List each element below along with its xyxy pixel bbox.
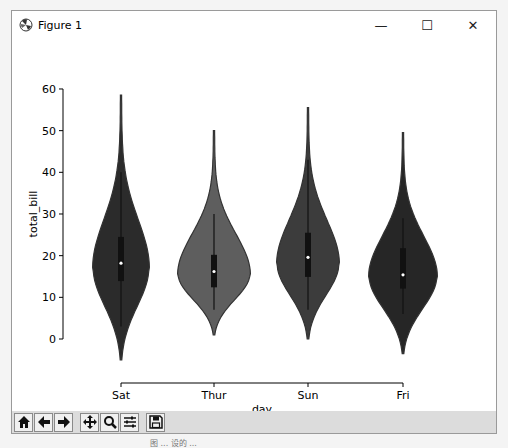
x-axis: SatThurSunFriday [112,383,410,411]
arrow-left-icon [37,415,51,429]
violin-sun [277,108,340,339]
maximize-button[interactable]: ☐ [404,11,450,39]
home-icon [17,415,31,429]
violin-sat [93,95,150,360]
window-title: Figure 1 [38,19,82,32]
y-tick-label: 10 [42,291,56,304]
y-axis-label: total_bill [27,191,40,238]
magnifier-icon [103,415,117,429]
iqr-box [118,237,124,281]
violins [93,95,438,360]
minimize-button[interactable]: — [358,11,404,39]
iqr-box [305,233,311,277]
forward-button[interactable] [54,413,73,432]
back-button[interactable] [34,413,53,432]
figure-window: Figure 1 — ☐ ✕ 0102030405060total_bill S… [11,10,497,434]
zoom-button[interactable] [100,413,119,432]
median-dot [306,256,309,259]
arrow-right-icon [57,415,71,429]
violin-plot: 0102030405060total_bill SatThurSunFriday [12,39,496,411]
x-tick-label: Fri [396,389,409,402]
close-button[interactable]: ✕ [450,11,496,39]
y-tick-label: 60 [42,83,56,96]
configure-subplots-button[interactable] [120,413,139,432]
maximize-icon: ☐ [421,18,433,33]
y-tick-label: 30 [42,208,56,221]
minimize-icon: — [375,18,388,33]
move-icon [83,415,97,429]
y-tick-label: 0 [49,333,56,346]
violin-thur [178,131,251,335]
y-tick-label: 20 [42,250,56,263]
violin-fri [369,133,438,354]
median-dot [401,273,404,276]
save-button[interactable] [146,413,165,432]
x-tick-label: Sat [112,389,131,402]
sliders-icon [123,415,137,429]
y-axis: 0102030405060total_bill [27,83,63,346]
y-tick-label: 40 [42,166,56,179]
figure-caption: 图 ... 设的 ... [150,437,197,448]
pan-button[interactable] [80,413,99,432]
iqr-box [400,248,406,288]
floppy-disk-icon [149,415,163,429]
median-dot [212,270,215,273]
y-tick-label: 50 [42,125,56,138]
title-bar[interactable]: Figure 1 — ☐ ✕ [12,11,496,39]
matplotlib-logo-icon [19,18,33,32]
median-dot [119,262,122,265]
x-tick-label: Thur [200,389,227,402]
home-button[interactable] [14,413,33,432]
navigation-toolbar [12,411,496,433]
x-axis-label: day [252,403,273,411]
x-tick-label: Sun [298,389,319,402]
close-icon: ✕ [468,18,479,33]
